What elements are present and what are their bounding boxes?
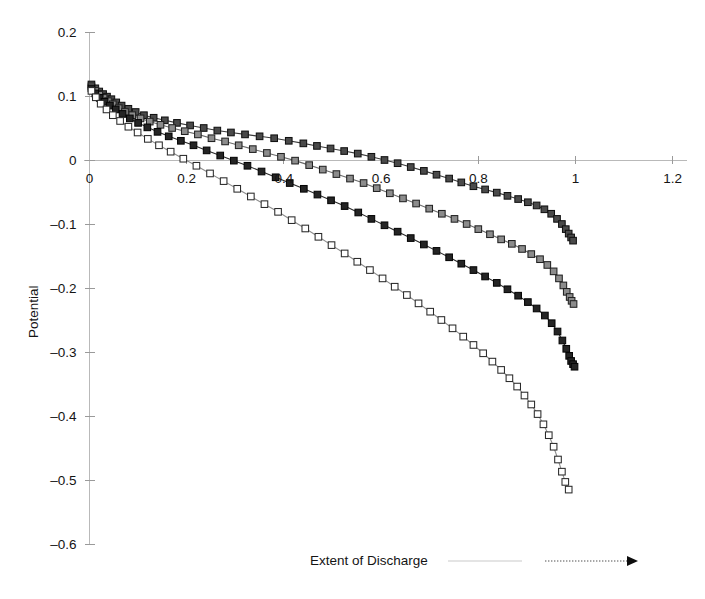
y-tick-label: 0.2 bbox=[58, 25, 77, 40]
x-tick-label: 0.4 bbox=[275, 171, 294, 186]
series-marker bbox=[181, 128, 188, 135]
series-marker bbox=[228, 129, 235, 136]
series-marker bbox=[341, 148, 348, 155]
series-marker bbox=[415, 300, 422, 307]
series-marker bbox=[156, 142, 163, 149]
series-marker bbox=[144, 124, 151, 131]
series-marker bbox=[504, 193, 511, 200]
series-marker bbox=[354, 150, 361, 157]
series-marker bbox=[195, 131, 202, 138]
series-marker bbox=[540, 421, 547, 428]
series-marker bbox=[528, 401, 535, 408]
series-marker bbox=[208, 135, 215, 142]
series-marker bbox=[306, 162, 313, 169]
series-marker bbox=[301, 186, 308, 193]
series-marker bbox=[509, 241, 516, 248]
series-marker bbox=[244, 162, 251, 169]
series-marker bbox=[145, 136, 152, 143]
series-marker bbox=[458, 179, 465, 186]
y-tick-label: 0.1 bbox=[58, 89, 77, 104]
figure-canvas: 0.20.10–0.1–0.2–0.3–0.4–0.5–0.600.20.40.… bbox=[0, 0, 705, 599]
series-marker bbox=[451, 216, 458, 223]
series-marker bbox=[391, 283, 398, 290]
series-marker bbox=[328, 242, 335, 249]
y-tick-label: –0.6 bbox=[50, 537, 76, 552]
series-marker bbox=[250, 146, 257, 153]
series-marker bbox=[315, 234, 322, 241]
series-marker bbox=[515, 196, 522, 203]
series-marker bbox=[167, 148, 174, 155]
series-marker bbox=[545, 432, 552, 439]
series-marker bbox=[178, 138, 185, 145]
x-tick-label: 0.8 bbox=[469, 171, 488, 186]
series-marker bbox=[427, 308, 434, 315]
series-marker bbox=[480, 350, 487, 357]
series-marker bbox=[285, 138, 292, 145]
series-marker bbox=[534, 411, 541, 418]
series-marker bbox=[103, 106, 110, 113]
series-marker bbox=[341, 250, 348, 257]
series-marker bbox=[333, 171, 340, 178]
series-marker bbox=[438, 317, 445, 324]
series-marker bbox=[570, 237, 577, 244]
series-marker bbox=[387, 190, 394, 197]
series-marker bbox=[548, 320, 555, 327]
series-marker bbox=[367, 267, 374, 274]
series-marker bbox=[234, 186, 241, 193]
series-marker bbox=[328, 197, 335, 204]
series-marker bbox=[302, 225, 309, 232]
y-tick-label: –0.5 bbox=[50, 473, 76, 488]
x-tick-label: 0.2 bbox=[177, 171, 196, 186]
series-marker bbox=[180, 155, 187, 162]
series-marker bbox=[541, 206, 548, 213]
series-marker bbox=[169, 125, 176, 132]
series-marker bbox=[327, 145, 334, 152]
series-marker bbox=[264, 150, 271, 157]
series-marker bbox=[217, 152, 224, 159]
series-marker bbox=[407, 235, 414, 242]
series-marker bbox=[446, 254, 453, 261]
series-marker bbox=[555, 456, 562, 463]
y-tick-label: 0 bbox=[69, 153, 77, 168]
series-line bbox=[91, 84, 573, 240]
series-marker bbox=[556, 275, 563, 282]
series-marker bbox=[542, 312, 549, 319]
x-tick-label: 0 bbox=[86, 171, 94, 186]
series-marker bbox=[489, 358, 496, 365]
series-marker bbox=[394, 160, 401, 167]
series-marker bbox=[550, 268, 557, 275]
series-marker bbox=[319, 166, 326, 173]
series-marker bbox=[200, 125, 207, 132]
series-marker bbox=[214, 127, 221, 134]
series-marker bbox=[515, 292, 522, 299]
series-marker bbox=[193, 162, 200, 169]
series-marker bbox=[154, 129, 161, 136]
series-marker bbox=[135, 120, 142, 127]
series-marker bbox=[231, 157, 238, 164]
series-line bbox=[91, 88, 574, 366]
series-marker bbox=[314, 143, 321, 150]
series-marker bbox=[360, 180, 367, 187]
series-marker bbox=[475, 226, 482, 233]
series-marker bbox=[292, 157, 299, 164]
series-marker bbox=[381, 222, 388, 229]
series-marker bbox=[525, 199, 532, 206]
y-axis-title: Potential bbox=[26, 285, 41, 338]
series-marker bbox=[559, 337, 566, 344]
series-marker bbox=[134, 129, 141, 136]
y-tick-label: –0.1 bbox=[50, 217, 76, 232]
series-marker bbox=[127, 115, 134, 122]
series-marker bbox=[433, 248, 440, 255]
x-axis-annotation-label: Extent of Discharge bbox=[310, 553, 428, 568]
series-group bbox=[88, 81, 576, 244]
series-marker bbox=[341, 203, 348, 210]
series-marker bbox=[314, 191, 321, 198]
series-marker bbox=[460, 333, 467, 340]
annotation-arrow-head-icon bbox=[627, 556, 638, 566]
series-marker bbox=[88, 88, 95, 95]
series-marker bbox=[117, 118, 124, 125]
series-marker bbox=[354, 258, 361, 265]
series-marker bbox=[242, 131, 249, 138]
series-marker bbox=[554, 328, 561, 335]
series-marker bbox=[439, 210, 446, 217]
